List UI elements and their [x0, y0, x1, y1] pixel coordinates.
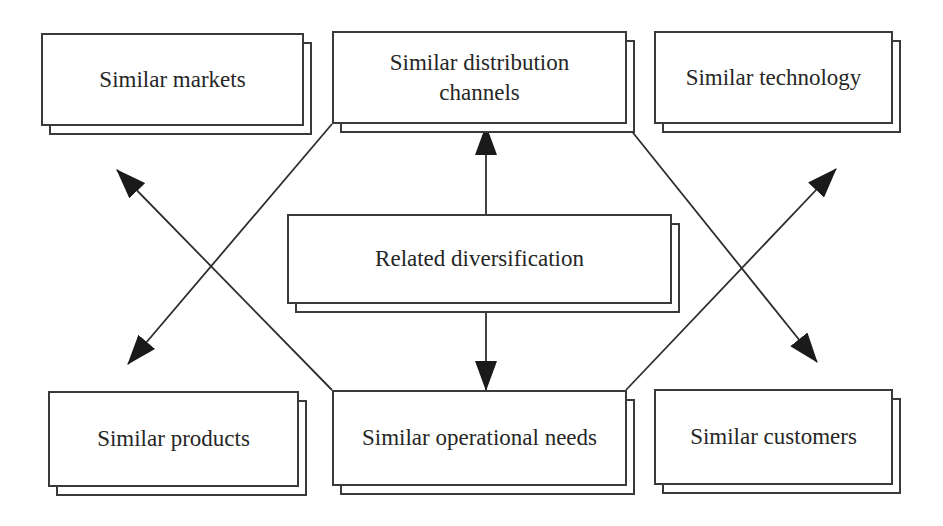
similar-operational-needs-label: Similar operational needs	[362, 423, 597, 453]
similar-markets-box: Similar markets	[41, 33, 312, 135]
box-face: Similar customers	[654, 389, 893, 485]
box-face: Related diversification	[287, 214, 672, 304]
similar-technology-label: Similar technology	[686, 63, 862, 93]
box-face: Similar operational needs	[332, 390, 627, 486]
related-diversification-box: Related diversification	[287, 214, 680, 313]
box-face: Similar products	[48, 391, 299, 487]
similar-markets-label: Similar markets	[99, 65, 245, 95]
similar-technology-box: Similar technology	[654, 31, 901, 133]
related-diversification-label: Related diversification	[375, 244, 584, 274]
box-face: Similar markets	[41, 33, 304, 126]
similar-products-box: Similar products	[48, 391, 307, 496]
box-face: Similar distribution channels	[332, 31, 627, 124]
similar-customers-label: Similar customers	[690, 422, 857, 452]
similar-products-label: Similar products	[97, 424, 250, 454]
similar-distribution-channels-label: Similar distribution channels	[390, 48, 570, 108]
similar-customers-box: Similar customers	[654, 389, 901, 494]
similar-distribution-channels-box: Similar distribution channels	[332, 31, 635, 133]
similar-operational-needs-box: Similar operational needs	[332, 390, 635, 495]
box-face: Similar technology	[654, 31, 893, 124]
